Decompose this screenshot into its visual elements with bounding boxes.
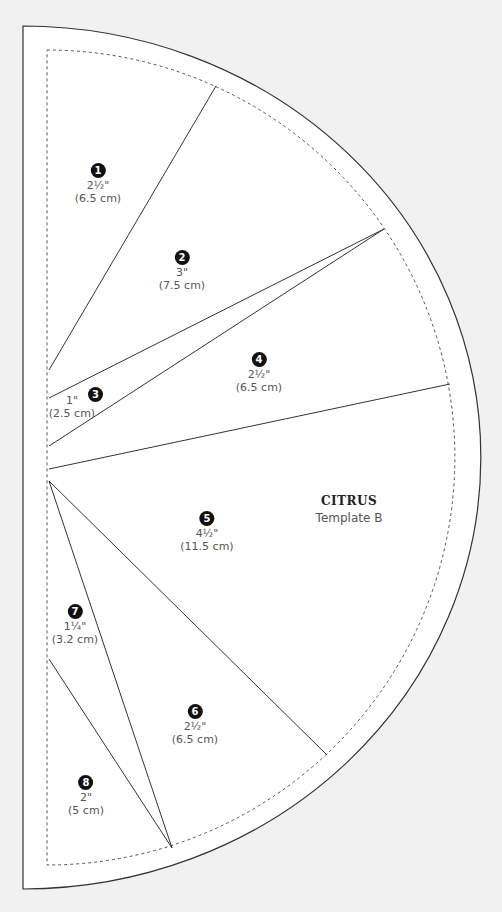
piece-2-label: 2 3" (7.5 cm) xyxy=(159,250,205,292)
piece-8-label: 8 2" (5 cm) xyxy=(68,775,104,817)
template-subtitle: Template B xyxy=(316,511,383,525)
piece-7-label: 7 1¼" (3.2 cm) xyxy=(52,604,98,646)
template-name: CITRUS xyxy=(316,494,383,508)
piece-number-badge: 2 xyxy=(175,250,190,265)
piece-4-label: 4 2½" (6.5 cm) xyxy=(236,352,282,394)
piece-number-badge: 3 xyxy=(88,387,103,402)
piece-5-label: 5 4½" (11.5 cm) xyxy=(180,511,233,553)
template-title: CITRUS Template B xyxy=(316,494,383,525)
piece-number-badge: 4 xyxy=(252,352,267,367)
piece-number-badge: 6 xyxy=(188,704,203,719)
piece-1-label: 1 2½" (6.5 cm) xyxy=(75,163,121,205)
piece-number-badge: 5 xyxy=(200,511,215,526)
piece-6-label: 6 2½" (6.5 cm) xyxy=(172,704,218,746)
piece-number-badge: 1 xyxy=(91,163,106,178)
outer-cut-line xyxy=(23,26,481,889)
piece-number-badge: 8 xyxy=(79,775,94,790)
piece-number-badge: 7 xyxy=(68,604,83,619)
